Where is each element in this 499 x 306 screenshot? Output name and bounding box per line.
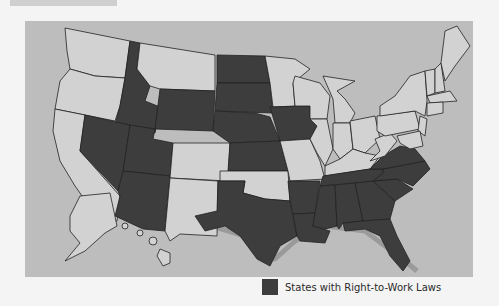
state-kansas xyxy=(228,141,288,171)
legend-label: States with Right-to-Work Laws xyxy=(285,282,441,293)
state-utah xyxy=(123,125,173,176)
state-new-mexico xyxy=(165,178,218,241)
map-legend: States with Right-to-Work Laws xyxy=(262,277,441,297)
state-hawaii-2 xyxy=(137,230,143,236)
state-hawaii-1 xyxy=(122,223,128,229)
state-nebraska xyxy=(213,111,280,143)
state-arizona xyxy=(115,171,170,231)
state-alaska xyxy=(65,193,117,261)
state-arkansas xyxy=(288,181,320,214)
map-panel xyxy=(25,21,473,277)
state-wyoming xyxy=(155,89,215,131)
state-south-dakota xyxy=(215,83,273,113)
state-maine xyxy=(441,26,470,81)
state-montana xyxy=(137,43,215,91)
state-north-dakota xyxy=(217,55,270,83)
state-ohio xyxy=(350,116,380,153)
us-map xyxy=(25,21,473,277)
state-hawaii-3 xyxy=(149,237,157,245)
top-tab xyxy=(10,0,117,6)
state-vermont xyxy=(425,69,435,96)
state-connecticut xyxy=(427,102,443,116)
state-hawaii-big xyxy=(157,249,170,266)
state-florida xyxy=(343,219,410,271)
state-new-york xyxy=(380,71,427,116)
legend-swatch xyxy=(262,279,278,295)
